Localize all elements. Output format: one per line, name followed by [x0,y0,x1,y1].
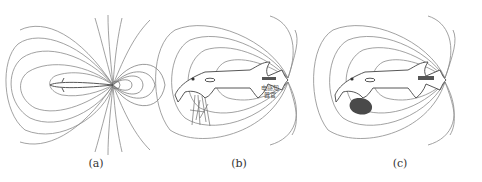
figure-canvas [0,0,482,182]
caption-b: (b) [219,157,259,170]
dark-stone-object [350,98,373,115]
panel-c-field [314,16,455,145]
caption-c: (c) [380,157,420,170]
panel-a-field [6,15,165,155]
fish-top-view [50,82,113,87]
panel-b-field [156,16,297,145]
caption-a: (a) [76,157,116,170]
electroreceptor-label: 电感知 器官 [258,84,282,98]
